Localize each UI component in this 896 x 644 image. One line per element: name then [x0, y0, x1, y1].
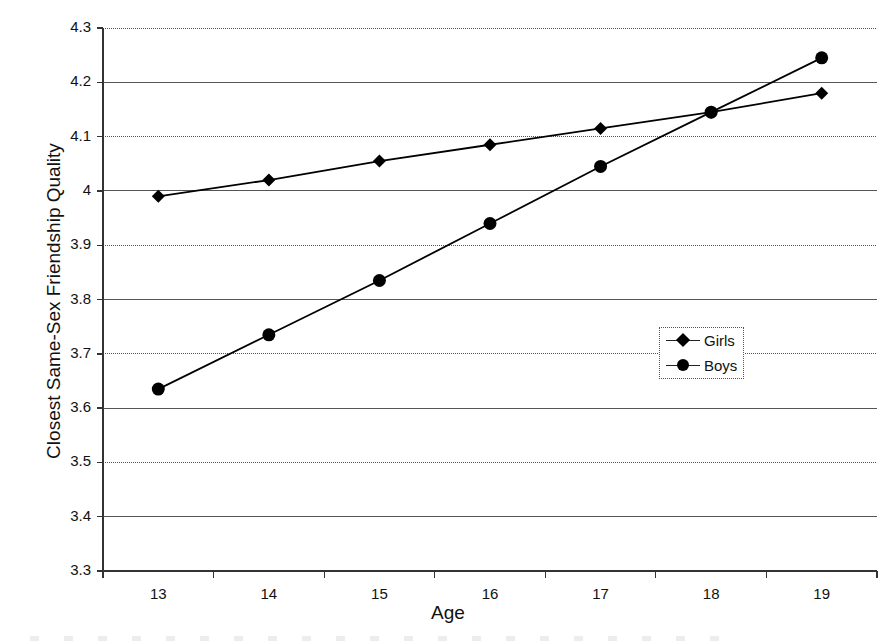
x-tick-label: 19: [792, 585, 852, 602]
y-tick-label: 4.1: [31, 127, 91, 144]
data-point-girls: [594, 122, 607, 135]
y-tick-label: 3.4: [31, 507, 91, 524]
data-point-boys: [484, 217, 497, 230]
data-point-boys: [373, 274, 386, 287]
legend-label-boys: Boys: [704, 357, 737, 374]
data-point-girls: [815, 87, 828, 100]
y-tick-label: 4.3: [31, 18, 91, 35]
y-tick-label: 3.5: [31, 452, 91, 469]
data-point-girls: [373, 155, 386, 168]
y-tick-label: 3.3: [31, 561, 91, 578]
data-point-boys: [815, 51, 828, 64]
data-point-boys: [262, 328, 275, 341]
x-tick-label: 18: [681, 585, 741, 602]
legend-label-girls: Girls: [704, 332, 735, 349]
x-tick-label: 13: [128, 585, 188, 602]
diamond-marker-icon: [676, 333, 690, 347]
y-tick-label: 3.9: [31, 235, 91, 252]
scan-artifact: [30, 636, 730, 641]
data-point-boys: [594, 160, 607, 173]
x-tick-label: 16: [460, 585, 520, 602]
x-tick-label: 15: [349, 585, 409, 602]
y-tick-label: 4: [31, 181, 91, 198]
chart-figure: Closest Same-Sex Friendship Quality Age …: [0, 0, 896, 644]
chart-legend: Girls Boys: [659, 327, 744, 379]
data-point-boys: [152, 383, 165, 396]
y-tick-label: 4.2: [31, 72, 91, 89]
y-tick-label: 3.7: [31, 344, 91, 361]
legend-entry-boys: Boys: [660, 353, 745, 379]
x-tick-label: 14: [239, 585, 299, 602]
x-axis-title: Age: [0, 602, 896, 624]
line-chart-plot: [0, 0, 896, 644]
data-point-girls: [262, 174, 275, 187]
x-tick-label: 17: [571, 585, 631, 602]
data-point-boys: [705, 106, 718, 119]
y-tick-label: 3.8: [31, 290, 91, 307]
legend-entry-girls: Girls: [660, 328, 745, 354]
data-point-girls: [484, 138, 497, 151]
y-tick-label: 3.6: [31, 398, 91, 415]
data-point-girls: [152, 190, 165, 203]
circle-marker-icon: [677, 359, 689, 371]
